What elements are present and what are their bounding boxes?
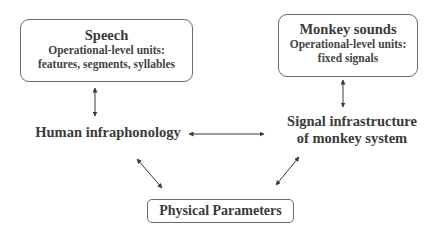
arrow-human-physical (137, 159, 162, 188)
arrows-layer (0, 0, 442, 236)
arrow-signal-physical (276, 157, 299, 185)
